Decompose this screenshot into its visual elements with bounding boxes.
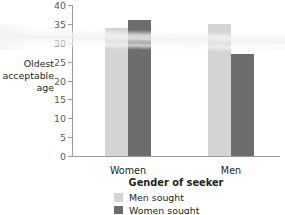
x-category-label-men: Men	[221, 165, 241, 176]
y-axis-line	[72, 5, 73, 157]
legend-item-women-sought: Women sought	[114, 204, 199, 214]
chart-legend: Men soughtWomen sought	[114, 191, 199, 214]
legend-swatch	[114, 193, 123, 202]
y-tick-mark	[68, 43, 72, 44]
y-axis-title: Oldest acceptable age	[0, 58, 54, 95]
y-tick-mark	[68, 137, 72, 138]
legend-label: Women sought	[129, 205, 199, 215]
x-axis-line	[72, 156, 280, 157]
y-tick-mark	[68, 5, 72, 6]
y-tick-label: 40	[54, 0, 66, 11]
legend-swatch	[114, 206, 123, 215]
y-tick-mark	[68, 62, 72, 63]
y-tick-label: 30	[54, 37, 66, 48]
y-tick-label: 25	[54, 56, 66, 67]
y-tick-label: 5	[60, 132, 66, 143]
y-tick-label: 35	[54, 18, 66, 29]
y-tick-mark	[68, 24, 72, 25]
bar-men-women-sought	[231, 54, 254, 156]
plot-area: 0510152025303540 WomenMen	[72, 5, 280, 157]
bar-men-men-sought	[208, 24, 231, 156]
y-tick-label: 15	[54, 94, 66, 105]
legend-label: Men sought	[129, 192, 184, 203]
x-axis-title: Gender of seeker	[72, 177, 280, 188]
y-tick-mark	[68, 99, 72, 100]
y-tick-label: 20	[54, 75, 66, 86]
y-tick-label: 10	[54, 113, 66, 124]
bar-chart-figure: Oldest acceptable age 0510152025303540 W…	[0, 0, 285, 214]
y-tick-mark	[68, 118, 72, 119]
y-tick-mark	[68, 156, 72, 157]
y-tick-label: 0	[60, 151, 66, 162]
x-category-label-women: Women	[110, 165, 146, 176]
scan-artifact-edge-fade	[0, 24, 34, 50]
y-tick-mark	[68, 81, 72, 82]
legend-item-men-sought: Men sought	[114, 191, 199, 203]
bar-women-women-sought	[128, 20, 151, 156]
bar-women-men-sought	[105, 28, 128, 156]
